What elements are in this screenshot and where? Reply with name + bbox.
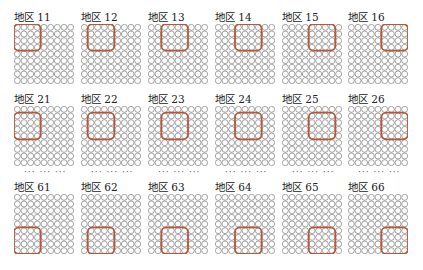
circle-grid (14, 106, 74, 166)
highlight-box (309, 113, 336, 140)
highlight-box (235, 113, 262, 140)
region-label: 地区 23 (148, 93, 185, 105)
region-label: 地区 65 (282, 181, 319, 193)
region-label: 地区 62 (81, 181, 118, 193)
ellipsis: ··· ··· ··· (91, 167, 133, 177)
highlight-box (381, 24, 408, 51)
circle-grid (148, 24, 208, 84)
region-label: 地区 15 (282, 11, 319, 23)
region-label: 地区 64 (215, 181, 252, 193)
region-label: 地区 66 (348, 181, 385, 193)
region-label: 地区 14 (215, 11, 252, 23)
region-label: 地区 11 (14, 11, 51, 23)
circle-grid (348, 194, 408, 254)
circle-grid (81, 106, 141, 166)
ellipsis: ··· ··· ··· (358, 167, 400, 177)
ellipsis: ··· ··· ··· (225, 167, 267, 177)
circle-grid (215, 194, 275, 254)
region-label: 地区 13 (148, 11, 185, 23)
highlight-box (381, 113, 408, 140)
highlight-box (88, 113, 115, 140)
circle-grid (348, 106, 408, 166)
circle-grid (215, 24, 275, 84)
region-label: 地区 21 (14, 93, 51, 105)
highlight-box (161, 227, 188, 254)
highlight-box (88, 227, 115, 254)
highlight-box (235, 24, 262, 51)
region-label: 地区 12 (81, 11, 118, 23)
circle-grid (81, 194, 141, 254)
highlight-box (14, 227, 41, 254)
highlight-box (309, 24, 336, 51)
circle-grid (81, 24, 141, 84)
circle-grid (282, 194, 342, 254)
highlight-box (381, 227, 408, 254)
region-label: 地区 16 (348, 11, 385, 23)
circle-grid (14, 194, 74, 254)
circle-grid (215, 106, 275, 166)
region-label: 地区 24 (215, 93, 252, 105)
circle-grid (282, 24, 342, 84)
circle-grid (282, 106, 342, 166)
ellipsis: ··· ··· ··· (292, 167, 334, 177)
region-label: 地区 61 (14, 181, 51, 193)
highlight-box (14, 24, 41, 51)
region-label: 地区 26 (348, 93, 385, 105)
region-label: 地区 22 (81, 93, 118, 105)
circle-grid (148, 194, 208, 254)
highlight-box (161, 113, 188, 140)
highlight-box (309, 227, 336, 254)
ellipsis: ··· ··· ··· (24, 167, 66, 177)
highlight-box (161, 24, 188, 51)
circle-grid (148, 106, 208, 166)
highlight-box (14, 113, 41, 140)
circle-grid (14, 24, 74, 84)
ellipsis: ··· ··· ··· (158, 167, 200, 177)
region-label: 地区 25 (282, 93, 319, 105)
highlight-box (88, 24, 115, 51)
highlight-box (235, 227, 262, 254)
circle-grid (348, 24, 408, 84)
region-label: 地区 63 (148, 181, 185, 193)
